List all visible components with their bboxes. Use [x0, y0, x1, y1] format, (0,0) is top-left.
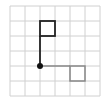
- gray-square: [70, 66, 85, 81]
- grid-lines: [10, 6, 100, 96]
- grid-diagram: [0, 0, 102, 101]
- origin-dot: [37, 63, 43, 69]
- black-square: [40, 21, 55, 36]
